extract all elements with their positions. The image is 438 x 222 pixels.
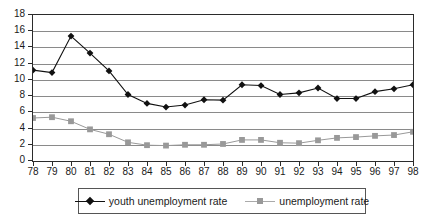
data-point-diamond	[296, 89, 303, 96]
data-point-square	[87, 126, 93, 132]
x-tick-label: 78	[23, 166, 43, 177]
x-tick-label: 88	[213, 166, 233, 177]
x-tick-label: 89	[232, 166, 252, 177]
data-point-square	[353, 134, 359, 140]
x-tick-mark	[204, 162, 205, 166]
data-point-diamond	[315, 85, 322, 92]
data-point-square	[372, 133, 378, 139]
y-tick-label: 4	[19, 123, 25, 133]
legend-item-unemployment-rate: unemployment rate	[245, 195, 369, 207]
data-point-diamond	[144, 100, 151, 107]
x-tick-mark	[52, 162, 53, 166]
y-tick-label: 8	[19, 90, 25, 100]
x-tick-label: 86	[175, 166, 195, 177]
data-point-square	[49, 114, 55, 120]
data-point-square	[277, 140, 283, 146]
x-tick-label: 94	[327, 166, 347, 177]
x-tick-label: 90	[251, 166, 271, 177]
data-point-diamond	[49, 69, 56, 76]
x-tick-mark	[223, 162, 224, 166]
x-tick-mark	[242, 162, 243, 166]
x-tick-label: 91	[270, 166, 290, 177]
x-tick-label: 81	[80, 166, 100, 177]
x-tick-mark	[318, 162, 319, 166]
x-tick-mark	[413, 162, 414, 166]
series-unemployment-rate	[33, 114, 413, 148]
legend-marker-square-icon	[245, 196, 275, 206]
legend-item-youth-unemployment-rate: youth unemployment rate	[75, 195, 227, 207]
series-layer	[33, 15, 413, 161]
data-point-square	[410, 129, 413, 135]
data-point-diamond	[33, 67, 36, 74]
x-tick-mark	[299, 162, 300, 166]
data-point-square	[201, 142, 207, 148]
data-point-square	[258, 137, 264, 143]
y-tick-label: 14	[14, 41, 25, 51]
x-tick-label: 95	[346, 166, 366, 177]
x-tick-mark	[71, 162, 72, 166]
x-tick-mark	[185, 162, 186, 166]
x-tick-label: 93	[308, 166, 328, 177]
x-tick-mark	[33, 162, 34, 166]
y-axis: 024681012141618	[0, 0, 30, 162]
x-tick-label: 79	[42, 166, 62, 177]
unemployment-line-chart: 024681012141618 787980818283848586878889…	[0, 0, 438, 222]
legend-label-youth: youth unemployment rate	[109, 195, 227, 207]
x-tick-label: 80	[61, 166, 81, 177]
x-tick-mark	[356, 162, 357, 166]
data-point-diamond	[182, 102, 189, 109]
x-tick-mark	[261, 162, 262, 166]
data-point-square	[220, 141, 226, 147]
plot-area	[32, 14, 414, 162]
data-point-square	[125, 139, 131, 145]
data-point-square	[144, 142, 150, 148]
x-tick-label: 82	[99, 166, 119, 177]
data-point-square	[315, 137, 321, 143]
data-point-square	[163, 143, 169, 149]
data-point-diamond	[372, 88, 379, 95]
x-tick-mark	[166, 162, 167, 166]
x-tick-label: 97	[384, 166, 404, 177]
data-point-diamond	[258, 82, 265, 89]
data-point-square	[296, 140, 302, 146]
data-point-diamond	[277, 91, 284, 98]
x-tick-mark	[394, 162, 395, 166]
y-tick-label: 10	[14, 74, 25, 84]
y-tick-label: 6	[19, 106, 25, 116]
x-tick-mark	[337, 162, 338, 166]
data-point-square	[182, 142, 188, 148]
data-point-diamond	[163, 104, 170, 111]
x-tick-mark	[147, 162, 148, 166]
y-tick-label: 0	[19, 155, 25, 165]
data-point-square	[334, 135, 340, 141]
y-tick-label: 18	[14, 9, 25, 19]
x-tick-mark	[90, 162, 91, 166]
chart-legend: youth unemployment rate unemployment rat…	[78, 188, 366, 214]
data-point-diamond	[391, 85, 398, 92]
y-tick-label: 12	[14, 58, 25, 68]
x-tick-label: 83	[118, 166, 138, 177]
x-tick-label: 84	[137, 166, 157, 177]
x-tick-mark	[109, 162, 110, 166]
legend-label-total: unemployment rate	[279, 195, 369, 207]
data-point-square	[391, 132, 397, 138]
data-point-diamond	[353, 95, 360, 102]
data-point-square	[33, 115, 36, 121]
data-point-square	[239, 137, 245, 143]
x-tick-mark	[280, 162, 281, 166]
x-axis: 7879808182838485868788899091929394959697…	[32, 166, 414, 182]
x-tick-label: 85	[156, 166, 176, 177]
x-tick-mark	[375, 162, 376, 166]
data-point-square	[106, 131, 112, 137]
x-tick-label: 96	[365, 166, 385, 177]
x-tick-mark	[128, 162, 129, 166]
legend-marker-diamond-icon	[75, 196, 105, 206]
y-tick-label: 16	[14, 25, 25, 35]
data-point-diamond	[334, 95, 341, 102]
data-point-diamond	[410, 81, 413, 88]
x-tick-label: 92	[289, 166, 309, 177]
series-youth-unemployment-rate	[33, 33, 413, 111]
data-point-diamond	[201, 96, 208, 103]
y-tick-label: 2	[19, 139, 25, 149]
data-point-square	[68, 118, 74, 124]
